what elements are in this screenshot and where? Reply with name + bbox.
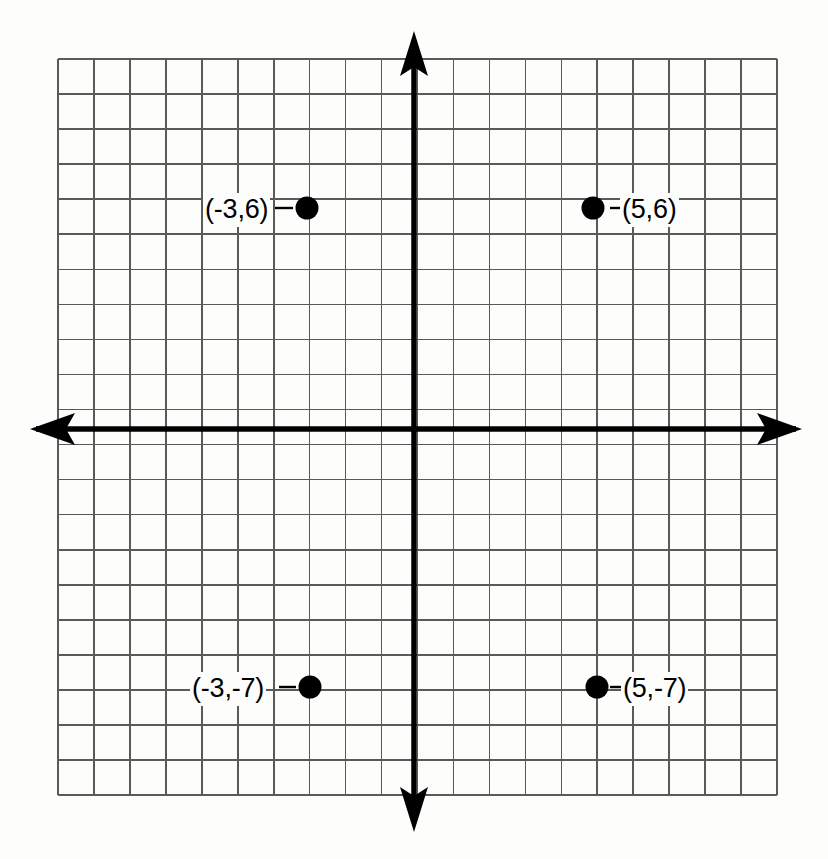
data-point-1: [296, 197, 319, 220]
point-label-neg3-neg7: (-3,-7): [190, 672, 266, 706]
point-label-5-6: (5,6): [620, 193, 679, 227]
coordinate-plane-figure: (-3,6) (5,6) (-3,-7) (5,-7): [0, 0, 828, 859]
coordinate-plane-svg: [0, 0, 828, 859]
point-label-neg3-6: (-3,6): [203, 193, 270, 227]
data-point-3: [299, 676, 322, 699]
data-point-4: [586, 676, 609, 699]
data-point-2: [582, 197, 605, 220]
point-label-5-neg7: (5,-7): [621, 672, 688, 706]
